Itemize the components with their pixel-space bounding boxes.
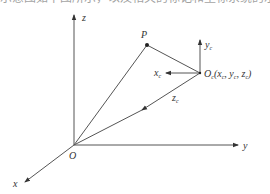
line-o-to-p xyxy=(74,45,147,145)
zc-axis xyxy=(142,73,200,110)
x-axis-label: x xyxy=(12,178,18,189)
xc-axis-label: xc xyxy=(153,67,161,79)
y-axis-label: y xyxy=(242,140,248,151)
zc-axis-label: zc xyxy=(171,92,179,104)
x-axis xyxy=(25,145,74,182)
origin-label: O xyxy=(69,150,76,161)
point-p-label: P xyxy=(140,29,147,40)
camera-origin-label: Oc(xc, yc, zc) xyxy=(204,68,252,80)
point-oc-dot xyxy=(199,72,201,74)
line-oc-to-o xyxy=(74,110,142,145)
coordinate-diagram: z y x O P yc xc zc Oc(xc, yc, zc) xyxy=(0,0,270,194)
point-p-dot xyxy=(145,43,149,47)
z-axis-label: z xyxy=(81,12,86,23)
yc-axis-label: yc xyxy=(204,39,212,51)
